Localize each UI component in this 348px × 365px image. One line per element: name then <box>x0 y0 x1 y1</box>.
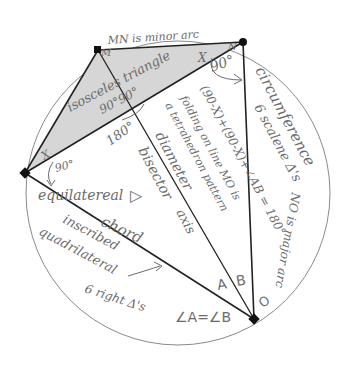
label-point-M: M <box>100 47 112 58</box>
label-x-top: X <box>197 51 207 65</box>
label-equilateral: equilatereal <box>38 187 123 203</box>
arrowhead-icon <box>234 74 242 84</box>
label-major-arc: NO is major arc <box>272 190 303 289</box>
triangle-icon: ▷ <box>130 186 143 205</box>
vertex-O <box>248 313 259 324</box>
label-angle-B: B <box>235 272 247 289</box>
geometry-diagram: MN is minor arc M N isosceles triangle 9… <box>0 0 348 365</box>
label-point-N: N <box>227 41 238 52</box>
arrow-90-left <box>48 162 53 184</box>
arrow-quadrilateral <box>128 266 160 276</box>
vertex-M <box>94 46 101 53</box>
label-90-left: 90° <box>53 157 75 175</box>
label-axis: axis <box>173 206 199 236</box>
label-point-O: O <box>256 292 272 310</box>
label-minor-arc: MN is minor arc <box>106 28 199 47</box>
label-angle-equal: ∠A=∠B <box>175 309 231 325</box>
label-angle-A: A <box>216 275 229 292</box>
label-right-triangles: 6 right Δ's <box>83 282 147 315</box>
vertex-N <box>239 38 247 46</box>
